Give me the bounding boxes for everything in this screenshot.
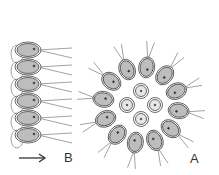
- colony-b-side-view: [11, 42, 72, 148]
- arrow-icon: [19, 154, 45, 162]
- colony-a-top-view: [77, 41, 205, 169]
- colony-drawing: [0, 0, 219, 175]
- illustration: B A: [0, 0, 219, 175]
- label-b: B: [64, 150, 73, 165]
- label-a: A: [190, 151, 199, 166]
